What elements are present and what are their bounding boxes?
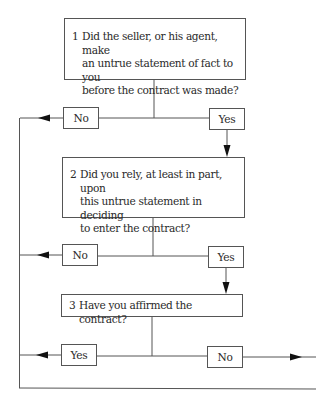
question-1-line-1: Did the seller, or his agent, make [82,30,243,57]
q3-yes-label: Yes [71,349,88,361]
question-2-box: 2 Did you rely, at least in part, upon t… [62,157,245,218]
flowchart: 1 Did the seller, or his agent, make an … [0,0,318,398]
question-3-box: 3 Have you affirmed the contract? [61,294,243,317]
q2-yes-box: Yes [208,246,244,268]
question-2-line-2: this untrue statement in deciding [80,195,242,222]
question-1-line-2: an untrue statement of fact to you [82,57,243,84]
q1-no-label: No [73,112,88,124]
question-3-line-1: Have you affirmed the contract? [79,299,240,326]
q3-no-box: No [207,346,243,368]
question-1-line-3: before the contract was made? [82,84,243,98]
q1-yes-label: Yes [219,113,236,125]
question-2-number: 2 [70,168,76,182]
question-2-line-3: to enter the contract? [80,222,242,236]
q1-yes-box: Yes [209,108,245,130]
question-3-number: 3 [69,299,75,313]
q2-yes-label: Yes [218,251,235,263]
question-1-box: 1 Did the seller, or his agent, make an … [64,18,246,80]
question-2-line-1: Did you rely, at least in part, upon [80,168,242,195]
q1-no-box: No [63,107,99,129]
q3-no-label: No [217,351,232,363]
q3-yes-box: Yes [61,344,97,366]
q2-no-box: No [62,244,98,266]
question-1-number: 1 [72,30,78,44]
q2-no-label: No [72,249,87,261]
